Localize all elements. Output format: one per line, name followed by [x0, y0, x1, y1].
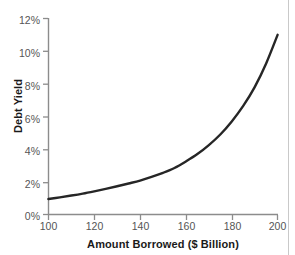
y-tick-label-10: 10%: [0, 47, 40, 59]
x-tick-label-160: 160: [167, 220, 207, 232]
x-tick-label-140: 140: [121, 220, 161, 232]
x-tick-label-120: 120: [75, 220, 115, 232]
x-tick-label-180: 180: [213, 220, 253, 232]
chart-plot-svg: [0, 0, 294, 255]
x-axis-title: Amount Borrowed ($ Billion): [48, 234, 278, 252]
y-axis-title-text: Debt Yield: [12, 79, 24, 133]
y-tick-label-4: 4%: [0, 145, 40, 157]
chart-figure: 12% 10% 8% 6% 4% 2% 0% 100 120 140 160 1…: [0, 0, 294, 255]
x-axis-title-text: Amount Borrowed ($ Billion): [87, 238, 239, 250]
x-tick-label-100: 100: [29, 220, 69, 232]
x-tick-label-200: 200: [258, 220, 295, 232]
y-axis-ticks: [43, 19, 48, 215]
axis-lines: [48, 18, 278, 215]
debt-yield-curve: [48, 35, 277, 199]
y-axis-title: Debt Yield: [8, 66, 28, 146]
y-tick-label-2: 2%: [0, 178, 40, 190]
y-tick-label-12: 12%: [0, 14, 40, 26]
